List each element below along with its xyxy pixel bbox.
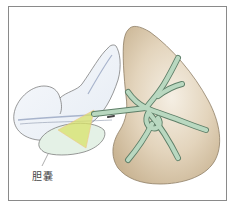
anatomy-figure: 胆嚢 (0, 0, 234, 209)
gallbladder-label: 胆嚢 (32, 168, 53, 183)
label-leader-line (42, 154, 48, 166)
